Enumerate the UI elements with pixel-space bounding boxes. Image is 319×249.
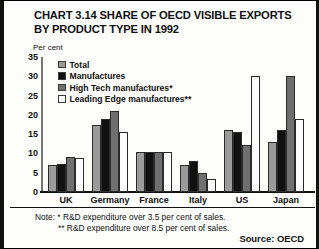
bar (48, 165, 57, 192)
y-axis-unit-label: Per cent (33, 43, 63, 52)
legend-swatch-high-tech-icon (58, 84, 66, 92)
y-tick-30: 30 (28, 71, 38, 81)
x-label-italy: Italy (189, 195, 207, 205)
x-label-uk: UK (60, 195, 73, 205)
x-label-france: France (139, 195, 169, 205)
legend-item-high-tech: High Tech manufactures* (58, 82, 191, 93)
bar (110, 111, 119, 192)
bar (145, 152, 154, 193)
legend-item-manufactures: Manufactures (58, 71, 191, 82)
bar (242, 145, 251, 192)
legend-label-manufactures: Manufactures (70, 71, 126, 81)
bar (224, 130, 233, 192)
bar (57, 164, 66, 192)
notes-divider (10, 207, 315, 208)
chart-legend: Total Manufactures High Tech manufacture… (58, 59, 191, 105)
bar (207, 179, 216, 193)
bar (268, 142, 277, 192)
bar (66, 157, 75, 192)
legend-swatch-leading-edge-icon (58, 95, 66, 103)
chart-source: Source: OECD (239, 233, 304, 244)
legend-item-leading-edge: Leading Edge manufactures** (58, 94, 191, 105)
bar (163, 152, 172, 193)
legend-label-leading-edge: Leading Edge manufactures** (70, 94, 192, 104)
legend-swatch-total-icon (58, 61, 66, 69)
chart-inner: CHART 3.14 SHARE OF OECD VISIBLE EXPORTS… (4, 1, 316, 248)
legend-swatch-manufactures-icon (58, 72, 66, 80)
bar (180, 165, 189, 192)
bar (154, 152, 163, 192)
chart-title: CHART 3.14 SHARE OF OECD VISIBLE EXPORTS… (34, 9, 304, 36)
note-line-2: ** R&D expenditure over 8.5 per cent of … (58, 223, 229, 233)
y-tick-15: 15 (28, 129, 38, 139)
legend-item-total: Total (58, 59, 191, 70)
x-label-us: US (236, 195, 249, 205)
bar (92, 125, 101, 193)
chart-card: CHART 3.14 SHARE OF OECD VISIBLE EXPORTS… (0, 0, 319, 249)
bar (295, 119, 304, 192)
bar (286, 76, 295, 192)
bar (119, 132, 128, 192)
y-tick-0: 0 (33, 187, 38, 197)
bar (136, 152, 145, 192)
note-line-1: Note: * R&D expenditure over 3.5 per cen… (35, 212, 225, 222)
bar (189, 161, 198, 192)
bar-group-us (222, 57, 262, 192)
bar (101, 119, 110, 192)
x-label-germany: Germany (90, 195, 129, 205)
bar (233, 132, 242, 192)
bar-group-japan (266, 57, 306, 192)
bar (277, 130, 286, 192)
x-label-japan: Japan (273, 195, 299, 205)
y-tick-5: 5 (33, 168, 38, 178)
y-tick-25: 25 (28, 91, 38, 101)
legend-label-high-tech: High Tech manufactures* (70, 83, 173, 93)
legend-label-total: Total (70, 60, 90, 70)
y-tick-10: 10 (28, 148, 38, 158)
y-tick-20: 20 (28, 110, 38, 120)
bar (251, 76, 260, 192)
bar (198, 173, 207, 192)
y-tick-35: 35 (28, 52, 38, 62)
bar (75, 158, 84, 192)
